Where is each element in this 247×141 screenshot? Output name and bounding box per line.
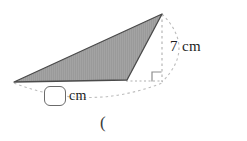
trailing-paren-text: ( — [100, 113, 106, 133]
triangle-shape — [14, 14, 162, 82]
right-angle-icon — [152, 72, 162, 82]
base-unit-label: cm — [69, 88, 87, 104]
height-label: 7 cm — [170, 38, 201, 55]
base-guide-arc — [14, 83, 162, 98]
triangle-diagram — [0, 0, 247, 141]
figure-canvas: cm 7 cm ( — [0, 0, 247, 141]
base-answer-box[interactable] — [44, 86, 66, 106]
